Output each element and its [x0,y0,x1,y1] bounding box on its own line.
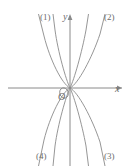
curve-2-inner [70,14,89,88]
x-axis-label: x [115,84,119,94]
origin-label: O [58,92,65,102]
curve-2-outer [70,14,105,88]
curve-label-2: (2) [104,13,115,22]
curves-group [39,14,106,166]
y-axis-arrowhead [68,14,73,20]
curve-label-1: (1) [40,13,51,22]
curve-label-4: (4) [36,152,47,161]
curve-1-inner [53,14,70,88]
curve-3-inner [70,88,89,166]
curve-3-outer [70,88,105,166]
axes-group [8,14,122,166]
y-axis-label: y [63,12,67,22]
curve-label-3: (3) [104,152,115,161]
plot-canvas [0,0,131,168]
math-figure: (1) (2) (3) (4) y x O [0,0,131,168]
